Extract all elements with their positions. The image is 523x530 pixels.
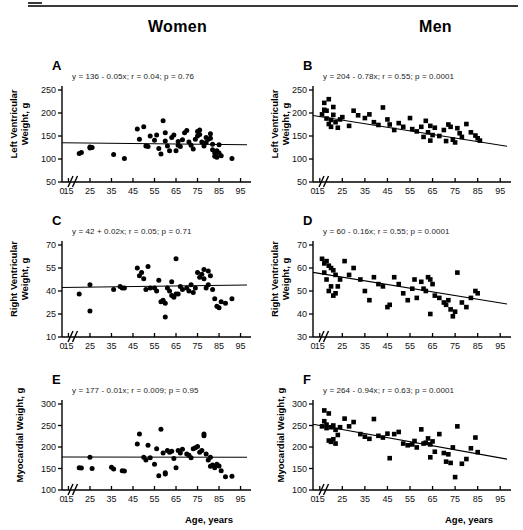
panel-b: 501001502002500152535455565758595By = 20… xyxy=(261,60,523,210)
svg-text:25: 25 xyxy=(85,186,95,196)
data-point xyxy=(428,312,433,317)
panel-c-equation: y = 42 + 0.02x; r = 0.05; p = 0.71 xyxy=(72,227,191,236)
data-point xyxy=(453,140,458,145)
data-point xyxy=(433,125,438,130)
data-point xyxy=(363,434,368,439)
data-point xyxy=(428,124,433,129)
data-point xyxy=(426,436,431,441)
data-point xyxy=(333,441,338,446)
data-point xyxy=(324,259,329,264)
data-point xyxy=(423,440,428,445)
data-point xyxy=(351,108,356,113)
data-point xyxy=(331,423,336,428)
data-point xyxy=(336,125,341,130)
data-point xyxy=(363,116,368,121)
data-point xyxy=(401,125,406,130)
data-point xyxy=(381,284,386,289)
svg-text:15: 15 xyxy=(315,494,325,504)
data-point xyxy=(148,134,153,139)
data-point xyxy=(448,125,453,130)
svg-text:250: 250 xyxy=(41,421,56,431)
data-point xyxy=(396,430,401,435)
data-point xyxy=(219,468,224,473)
data-point xyxy=(161,118,166,123)
data-point xyxy=(87,282,92,287)
data-point xyxy=(180,447,185,452)
data-point xyxy=(326,411,331,416)
data-point xyxy=(347,273,352,278)
data-point xyxy=(122,156,127,161)
svg-text:85: 85 xyxy=(473,186,483,196)
panel-f-y-axis-label: Myocardial Weight, g xyxy=(275,372,286,498)
svg-text:65: 65 xyxy=(428,341,438,351)
svg-text:55: 55 xyxy=(149,186,159,196)
data-point xyxy=(90,466,95,471)
data-point xyxy=(219,153,224,158)
svg-text:10: 10 xyxy=(46,332,56,342)
svg-text:95: 95 xyxy=(236,494,246,504)
data-point xyxy=(111,152,116,157)
data-point xyxy=(146,264,151,269)
data-point xyxy=(442,451,447,456)
data-point xyxy=(146,144,151,149)
data-point xyxy=(176,292,181,297)
data-point xyxy=(478,138,483,143)
data-point xyxy=(414,445,419,450)
data-point xyxy=(401,291,406,296)
svg-text:95: 95 xyxy=(495,186,505,196)
data-point xyxy=(412,277,417,282)
data-point xyxy=(174,256,179,261)
data-point xyxy=(385,117,390,122)
data-point xyxy=(410,286,415,291)
data-point xyxy=(448,307,453,312)
data-point xyxy=(135,441,140,446)
data-point xyxy=(338,425,343,430)
data-point xyxy=(419,427,424,432)
data-point xyxy=(408,116,413,121)
data-point xyxy=(469,130,474,135)
data-point xyxy=(451,445,456,450)
data-point xyxy=(174,465,179,470)
svg-text:85: 85 xyxy=(214,186,224,196)
data-point xyxy=(396,282,401,287)
svg-text:150: 150 xyxy=(41,464,56,474)
data-point xyxy=(137,432,142,437)
svg-text:250: 250 xyxy=(292,85,307,95)
data-point xyxy=(446,298,451,303)
data-point xyxy=(139,270,144,275)
data-point xyxy=(163,472,168,477)
svg-text:65: 65 xyxy=(428,186,438,196)
data-point xyxy=(320,112,325,117)
data-point xyxy=(473,435,478,440)
data-point xyxy=(223,474,228,479)
data-point xyxy=(201,267,206,272)
data-point xyxy=(223,301,228,306)
data-point xyxy=(347,424,352,429)
svg-text:45: 45 xyxy=(382,186,392,196)
svg-text:300: 300 xyxy=(292,399,307,409)
data-point xyxy=(381,435,386,440)
svg-text:75: 75 xyxy=(193,186,203,196)
data-point xyxy=(430,282,435,287)
data-point xyxy=(338,277,343,282)
data-point xyxy=(210,142,215,147)
data-point xyxy=(392,128,397,133)
data-point xyxy=(421,135,426,140)
data-point xyxy=(419,280,424,285)
svg-text:85: 85 xyxy=(214,341,224,351)
data-point xyxy=(324,426,329,431)
data-point xyxy=(430,439,435,444)
data-point xyxy=(333,428,338,433)
data-point xyxy=(433,293,438,298)
data-point xyxy=(464,305,469,310)
panel-letter-b: B xyxy=(303,58,312,73)
data-point xyxy=(414,129,419,134)
data-point xyxy=(320,257,325,262)
svg-text:35: 35 xyxy=(106,186,116,196)
panel-a-y-axis-label: Left VentricularWeight, g xyxy=(8,58,30,190)
data-point xyxy=(428,138,433,143)
panel-e-y-axis-label: Myocardial Weight, g xyxy=(14,372,25,498)
svg-text:25: 25 xyxy=(46,309,56,319)
svg-text:30: 30 xyxy=(297,332,307,342)
data-point xyxy=(437,134,442,139)
